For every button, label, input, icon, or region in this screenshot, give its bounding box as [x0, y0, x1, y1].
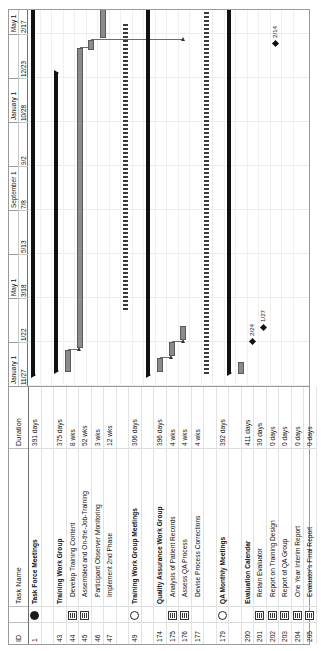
row-id: 44: [67, 622, 79, 644]
gantt-sheet: ID Task Name Duration 1Task Force Meetin…: [8, 9, 310, 645]
column-header-indicator[interactable]: [9, 606, 28, 622]
timeline-gridline: [28, 297, 309, 298]
row-task-name: Retain Evaluator: [254, 448, 266, 606]
row-id: 46: [92, 622, 104, 644]
row-duration: 8 wks: [67, 386, 79, 448]
summary-bar[interactable]: [146, 10, 150, 376]
table-row[interactable]: 204One Year Interim Report0 days: [292, 387, 305, 644]
row-id: 201: [254, 622, 266, 644]
recurring-task-bar[interactable]: [204, 10, 209, 374]
table-row[interactable]: 43Training Work Group375 days: [54, 387, 67, 644]
task-bar[interactable]: [238, 362, 244, 374]
timeline-header: January 1May 1September 1January 1May 1S…: [9, 10, 28, 386]
table-row[interactable]: 1Task Force Meetings391 days: [29, 387, 42, 644]
row-duration: 411 days: [242, 386, 254, 448]
row-duration: [229, 386, 241, 448]
task-bar[interactable]: [65, 350, 71, 372]
row-id: 42: [42, 622, 54, 644]
table-row[interactable]: 44Develop Training Content8 wks: [67, 387, 80, 644]
task-bar[interactable]: [77, 48, 83, 348]
indicator-cell: [229, 606, 241, 622]
table-row[interactable]: 177Devise Process Corrections4 wks: [192, 387, 205, 644]
row-task-name: Devise Process Corrections: [192, 448, 204, 606]
row-id: 45: [79, 622, 91, 644]
row-task-name: Report on Training Design: [267, 448, 279, 606]
timeline-row-gridline: [281, 10, 282, 386]
recurring-task-bar[interactable]: [123, 22, 128, 310]
table-row[interactable]: 202Report on Training Design0 days: [267, 387, 280, 644]
timeline-minor-tick: 3/18: [18, 254, 28, 298]
table-row[interactable]: 205Evaluator's Final Report0 days: [304, 387, 317, 644]
task-bar[interactable]: [88, 40, 94, 50]
row-task-name: Develop Training Content: [67, 448, 79, 606]
row-id: 176: [179, 622, 191, 644]
summary-bar[interactable]: [54, 72, 58, 372]
indicator-cell: [117, 606, 129, 622]
row-id: 173: [142, 622, 154, 644]
table-row[interactable]: 175Analysis of Patient Records4 wks: [167, 387, 180, 644]
table-row[interactable]: 179QA Monthly Meetings392 days: [217, 387, 230, 644]
timeline-row-gridline: [270, 10, 271, 386]
timeline-row-gridline: [293, 10, 294, 386]
milestone-marker[interactable]: [248, 338, 255, 345]
task-bar[interactable]: [169, 342, 175, 356]
row-duration: 0 days: [267, 386, 279, 448]
timeline-row-gridline: [40, 10, 41, 386]
timeline-minor-tick: 7/8: [18, 166, 28, 210]
timeline-row-gridline: [51, 10, 52, 386]
row-task-name: Evaluation Calendar: [242, 448, 254, 606]
summary-bar[interactable]: [31, 10, 35, 376]
table-row[interactable]: 48: [117, 387, 130, 644]
timeline-row-gridline: [143, 10, 144, 386]
timeline-row-gridline: [201, 10, 202, 386]
row-duration: [117, 386, 129, 448]
table-row[interactable]: 200Evaluation Calendar411 days: [242, 387, 255, 644]
timeline-major-tick: May 1: [9, 10, 18, 34]
task-bar[interactable]: [157, 358, 163, 372]
milestone-marker[interactable]: [271, 40, 278, 47]
table-row[interactable]: 178: [204, 387, 217, 644]
row-id: 179: [217, 622, 229, 644]
task-table-body: 1Task Force Meetings391 days4243Training…: [29, 387, 317, 644]
summary-bar[interactable]: [227, 10, 231, 374]
row-id: 1: [29, 622, 41, 644]
table-row[interactable]: 45Assembled and On-the-Job-Training52 wk…: [79, 387, 92, 644]
timeline-row-gridline: [235, 10, 236, 386]
column-header-duration[interactable]: Duration: [9, 386, 28, 448]
row-task-name: Evaluator's Final Report: [304, 448, 316, 606]
timeline-body: 2/241/272/147/30: [28, 10, 309, 386]
milestone-marker[interactable]: [260, 324, 267, 331]
timeline-row-gridline: [155, 10, 156, 386]
table-row[interactable]: 49Training Work Group Meetings306 days: [129, 387, 142, 644]
table-row[interactable]: 174Quality Assurance Work Group396 days: [154, 387, 167, 644]
table-row[interactable]: 47Implement 2nd Phase12 wks: [104, 387, 117, 644]
column-header-task-name[interactable]: Task Name: [9, 448, 28, 606]
timeline-row-gridline: [74, 10, 75, 386]
dependency-arrow: [181, 37, 185, 41]
row-task-name: Task Force Meetings: [29, 448, 41, 606]
timeline-row-gridline: [86, 10, 87, 386]
row-duration: 52 wks: [79, 386, 91, 448]
timeline-row-gridline: [212, 10, 213, 386]
note-icon: [79, 606, 91, 622]
table-row[interactable]: 173: [142, 387, 155, 644]
column-header-id[interactable]: ID: [9, 622, 28, 644]
row-task-name: Participant Observer Monitoring: [92, 448, 104, 606]
table-row[interactable]: 201Retain Evaluator30 days: [254, 387, 267, 644]
timeline-minor-tick: 1/22: [18, 298, 28, 342]
row-task-name: One Year Interim Report: [292, 448, 304, 606]
milestone-label: 1/27: [259, 310, 266, 322]
table-row[interactable]: 176Assess QA Process4 wks: [179, 387, 192, 644]
task-bar[interactable]: [100, 10, 106, 38]
row-task-name: [42, 448, 54, 606]
timeline-row-gridline: [132, 10, 133, 386]
task-bar[interactable]: [180, 326, 186, 340]
table-row[interactable]: 42: [42, 387, 55, 644]
table-row[interactable]: 199: [229, 387, 242, 644]
timeline-gridline: [28, 121, 309, 122]
summary-bar-cap: [146, 372, 151, 378]
task-table-header: ID Task Name Duration: [9, 387, 29, 644]
table-row[interactable]: 46Participant Observer Monitoring3 wks: [92, 387, 105, 644]
table-row[interactable]: 203Report of QA Group0 days: [279, 387, 292, 644]
timeline-pane: January 1May 1September 1January 1May 1S…: [9, 10, 309, 386]
